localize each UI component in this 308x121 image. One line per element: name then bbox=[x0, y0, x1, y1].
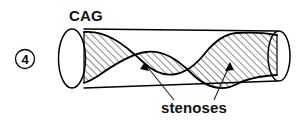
index-badge-label: 4 bbox=[21, 52, 29, 67]
cylinder-top-edge bbox=[84, 29, 277, 31]
cylinder-bottom-edge bbox=[84, 81, 277, 88]
cag-vessel-diagram: 4 CAG stenoses bbox=[0, 0, 308, 121]
stenoses-annotation-label: stenoses bbox=[161, 99, 227, 116]
cag-title-label: CAG bbox=[69, 7, 103, 24]
lumen-hatched-region bbox=[84, 32, 277, 88]
vessel-left-cap bbox=[59, 29, 86, 88]
index-badge: 4 bbox=[16, 50, 35, 69]
figure-root: 4 CAG stenoses bbox=[0, 0, 308, 121]
